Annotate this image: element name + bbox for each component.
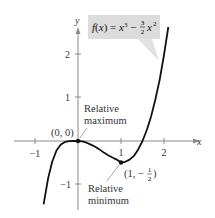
max-label-line1: Relative bbox=[84, 103, 119, 114]
x-tick-label: 2 bbox=[162, 147, 167, 158]
label-pointer bbox=[138, 39, 159, 61]
x-tick-label: 1 bbox=[119, 147, 124, 158]
y-axis-name: y bbox=[74, 15, 80, 26]
graph-figure: f(x) = x3 − 3 2 x 2 x y −1 1 2 2 1 −1 bbox=[0, 0, 215, 218]
x-axis-name: x bbox=[196, 136, 202, 147]
min-coord-open: (1, − bbox=[124, 168, 144, 180]
y-tick-label: 2 bbox=[65, 49, 70, 60]
frac-num: 3 bbox=[141, 19, 145, 27]
max-leader-line bbox=[80, 128, 87, 138]
fn-x: x bbox=[146, 21, 152, 33]
min-leader-line bbox=[107, 165, 119, 181]
y-tick-label: 1 bbox=[65, 92, 70, 103]
max-label-line2: maximum bbox=[84, 115, 127, 126]
min-label-line2: minimum bbox=[88, 195, 129, 206]
relative-max-point bbox=[76, 139, 80, 143]
min-frac-den: 2 bbox=[148, 175, 152, 183]
relative-min-point bbox=[119, 160, 123, 164]
y-axis-arrow-icon bbox=[76, 27, 81, 34]
frac-den: 2 bbox=[141, 28, 145, 36]
fn-exp2: 2 bbox=[153, 20, 157, 28]
function-label: f(x) = x3 − bbox=[92, 21, 136, 34]
min-frac-num: 1 bbox=[148, 166, 152, 174]
min-label-line1: Relative bbox=[88, 183, 123, 194]
y-tick-label: −1 bbox=[60, 179, 71, 190]
min-coord-close: ) bbox=[153, 168, 157, 180]
x-tick-label: −1 bbox=[30, 148, 41, 159]
max-coord-label: (0, 0) bbox=[51, 127, 74, 139]
